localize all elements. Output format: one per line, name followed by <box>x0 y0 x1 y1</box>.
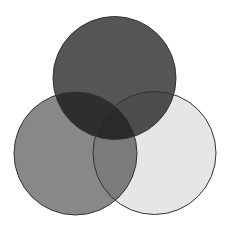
right-circle <box>93 92 216 215</box>
venn-diagram <box>0 0 225 230</box>
